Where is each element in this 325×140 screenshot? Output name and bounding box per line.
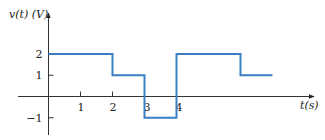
- y-tick-label: 1: [36, 69, 43, 82]
- x-ticks: 1234: [78, 92, 183, 114]
- step-function-chart: 1234 21−1 v(t) (V) t(s): [0, 0, 325, 140]
- x-tick-label: 1: [78, 101, 85, 114]
- x-axis-label: t(s): [300, 99, 319, 112]
- y-tick-label: 2: [36, 48, 43, 61]
- y-ticks: 21−1: [26, 48, 53, 125]
- x-tick-label: 2: [110, 101, 117, 114]
- y-axis-label: v(t) (V): [9, 8, 48, 21]
- y-tick-label: −1: [26, 112, 42, 125]
